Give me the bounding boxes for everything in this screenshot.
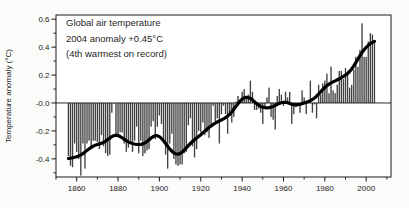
anomaly-bar — [186, 103, 187, 152]
anomaly-bar — [196, 103, 197, 149]
anomaly-bar — [107, 103, 108, 156]
anomaly-bar — [157, 103, 158, 127]
chart-subtitle-rank: (4th warmest on record) — [66, 48, 167, 59]
anomaly-bar — [144, 103, 145, 153]
anomaly-bar — [291, 103, 292, 124]
anomaly-bar — [363, 57, 364, 103]
anomaly-bar — [322, 83, 323, 103]
y-tick-label: -0.4 — [36, 155, 50, 164]
anomaly-bar — [105, 103, 106, 153]
anomaly-bar — [153, 103, 154, 121]
anomaly-bar — [97, 103, 98, 142]
anomaly-bar — [194, 103, 195, 157]
anomaly-bar — [337, 85, 338, 103]
anomaly-bar — [86, 103, 87, 144]
anomaly-bar — [221, 103, 222, 114]
anomaly-bar — [279, 89, 280, 103]
anomaly-bar — [328, 93, 329, 103]
anomaly-bar — [361, 23, 362, 103]
anomaly-bar — [208, 103, 209, 138]
anomaly-bar — [334, 93, 335, 103]
anomaly-bar — [82, 103, 83, 144]
y-tick-label: 0.2 — [38, 71, 50, 80]
anomaly-bar — [353, 69, 354, 103]
x-tick-label: 1880 — [109, 184, 127, 193]
x-tick-label: 1940 — [233, 184, 251, 193]
chart-subtitle-anomaly: 2004 anomaly +0.45°C — [66, 33, 163, 44]
x-tick-label: 1920 — [192, 184, 210, 193]
y-tick-label: 0.4 — [38, 43, 50, 52]
chart-canvas: 186018801900192019401960198020000.60.40.… — [0, 0, 409, 208]
anomaly-bar — [80, 103, 81, 176]
anomaly-bar — [181, 103, 182, 164]
x-tick-label: 1860 — [68, 184, 86, 193]
anomaly-bar — [134, 103, 135, 141]
y-tick-label: -0.2 — [36, 127, 50, 136]
anomaly-bar — [142, 103, 143, 156]
anomaly-bar — [301, 90, 302, 103]
anomaly-bar — [109, 103, 110, 155]
anomaly-bar — [200, 103, 201, 132]
x-tick-label: 1980 — [316, 184, 334, 193]
anomaly-bar — [161, 103, 162, 124]
anomaly-bar — [215, 103, 216, 121]
y-axis-label: Temperature anomaly (°C) — [4, 49, 13, 143]
anomaly-bar — [320, 95, 321, 103]
anomaly-bar — [74, 103, 75, 144]
anomaly-bar — [368, 42, 369, 103]
anomaly-bar — [130, 103, 131, 141]
anomaly-bar — [119, 103, 120, 132]
anomaly-bar — [349, 88, 350, 103]
anomaly-bar — [88, 103, 89, 141]
x-tick-label: 1900 — [150, 184, 168, 193]
anomaly-bar — [155, 103, 156, 139]
anomaly-bar — [277, 96, 278, 103]
anomaly-bar — [103, 103, 104, 146]
anomaly-bar — [188, 103, 189, 125]
anomaly-bar — [126, 103, 127, 152]
anomaly-bar — [198, 103, 199, 131]
anomaly-bar — [289, 92, 290, 103]
anomaly-bar — [374, 40, 375, 103]
anomaly-bar — [117, 103, 118, 137]
anomaly-bar — [270, 103, 271, 117]
anomaly-bar — [165, 103, 166, 155]
anomaly-bar — [326, 74, 327, 103]
anomaly-bar — [136, 103, 137, 127]
anomaly-bar — [357, 67, 358, 103]
anomaly-bar — [219, 103, 220, 144]
anomaly-bar — [140, 103, 141, 141]
anomaly-bar — [177, 103, 178, 166]
anomaly-bar — [210, 103, 211, 124]
anomaly-bar — [76, 103, 77, 152]
anomaly-bar — [171, 103, 172, 134]
anomaly-bar — [217, 103, 218, 118]
anomaly-bar — [244, 89, 245, 103]
anomaly-bar — [167, 103, 168, 169]
anomaly-bar — [306, 103, 307, 114]
anomaly-bar — [316, 103, 317, 118]
anomaly-bar — [122, 103, 123, 132]
anomaly-bar — [190, 103, 191, 118]
y-tick-label: 0.6 — [38, 15, 50, 24]
anomaly-bar — [366, 57, 367, 103]
anomaly-bar — [90, 103, 91, 148]
anomaly-bar — [159, 103, 160, 116]
anomaly-bar — [202, 103, 203, 123]
anomaly-bar — [169, 103, 170, 144]
y-tick-label: -0.0 — [36, 99, 50, 108]
anomaly-bar — [312, 103, 313, 113]
anomaly-bar — [343, 79, 344, 103]
anomaly-bar — [70, 103, 71, 166]
anomaly-bar — [95, 103, 96, 141]
anomaly-bar — [111, 103, 112, 113]
anomaly-bar — [115, 103, 116, 137]
x-tick-label: 2000 — [357, 184, 375, 193]
anomaly-bar — [163, 103, 164, 142]
temperature-anomaly-figure: 186018801900192019401960198020000.60.40.… — [0, 0, 409, 208]
x-tick-label: 1960 — [275, 184, 293, 193]
anomaly-bar — [324, 81, 325, 103]
anomaly-bar — [68, 103, 69, 156]
anomaly-bar — [372, 35, 373, 103]
anomaly-bar — [268, 88, 269, 103]
